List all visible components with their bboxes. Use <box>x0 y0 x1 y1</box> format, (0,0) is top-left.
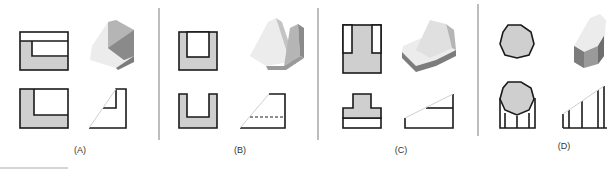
panel-label-c: (C) <box>395 145 408 155</box>
isometric-view <box>402 20 456 72</box>
side-view <box>240 94 285 128</box>
side-view <box>89 89 126 128</box>
orthographic-views-figure <box>0 0 616 169</box>
top-view <box>500 25 534 58</box>
side-view <box>405 94 453 128</box>
panel-a <box>20 20 134 128</box>
front-view <box>343 94 381 128</box>
top-view <box>179 32 217 70</box>
side-view <box>563 86 607 128</box>
panel-c <box>343 20 456 128</box>
panel-label-b: (B) <box>234 145 246 155</box>
top-view <box>343 25 381 73</box>
top-view <box>20 32 68 70</box>
isometric-view <box>250 18 304 70</box>
front-view <box>20 89 68 128</box>
panel-b <box>179 18 304 128</box>
panel-d <box>500 14 607 128</box>
isometric-view <box>574 14 606 68</box>
front-view <box>500 82 535 128</box>
panel-label-d: (D) <box>558 141 571 151</box>
panel-label-a: (A) <box>74 145 86 155</box>
isometric-view <box>90 20 134 70</box>
front-view <box>179 94 217 128</box>
